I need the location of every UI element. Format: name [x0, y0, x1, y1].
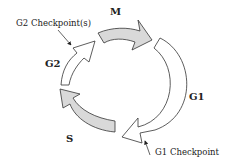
label-g2: G2	[45, 58, 61, 69]
g2-checkpoint-pointer	[58, 30, 71, 45]
cell-cycle-diagram: M G1 S G2 G2 Checkpoint(s) G1 Checkpoint	[0, 0, 234, 167]
label-m: M	[110, 6, 121, 17]
label-s: S	[66, 133, 73, 144]
label-g2-checkpoint: G2 Checkpoint(s)	[16, 18, 91, 28]
g1-checkpoint-pointer	[145, 141, 150, 155]
label-g1-checkpoint: G1 Checkpoint	[155, 147, 220, 157]
phase-arrow-g2	[61, 41, 95, 85]
phase-arrow-s	[60, 89, 115, 132]
label-g1: G1	[189, 91, 205, 102]
phase-arrow-g1	[122, 38, 187, 143]
phase-arrow-m	[98, 20, 152, 50]
